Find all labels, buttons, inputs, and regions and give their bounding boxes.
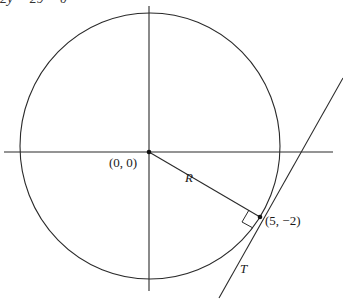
tangent-line bbox=[219, 78, 343, 298]
right-angle-marker bbox=[242, 210, 253, 228]
circle-tangent-diagram: (0, 0) R (5, −2) T bbox=[0, 0, 343, 306]
tangent-point-label: (5, −2) bbox=[265, 213, 301, 228]
origin-label: (0, 0) bbox=[109, 155, 137, 170]
radius-line bbox=[149, 152, 260, 217]
radius-label: R bbox=[184, 170, 193, 185]
circle bbox=[20, 13, 280, 279]
tangent-line-label: T bbox=[240, 261, 248, 276]
origin-point bbox=[147, 150, 152, 155]
tangent-point bbox=[258, 215, 263, 220]
